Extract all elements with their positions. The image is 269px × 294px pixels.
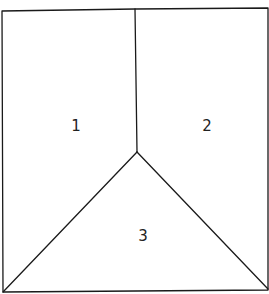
- partition-diagram: 1 2 3: [0, 0, 269, 294]
- region-2-label: 2: [202, 117, 212, 135]
- region-1-label: 1: [71, 117, 81, 135]
- vertical-divider: [135, 9, 137, 152]
- right-diagonal: [137, 152, 268, 289]
- region-3-label: 3: [138, 227, 148, 245]
- left-diagonal: [3, 152, 137, 292]
